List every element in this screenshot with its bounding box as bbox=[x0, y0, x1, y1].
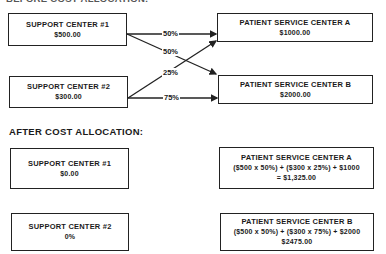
after-support-center-1: SUPPORT CENTER #1 $0.00 bbox=[10, 148, 129, 189]
label-sc2-to-a: 25% bbox=[162, 68, 179, 77]
before-support-center-2: SUPPORT CENTER #2 $300.00 bbox=[9, 76, 128, 108]
after-patient-center-a: PATIENT SERVICE CENTER A ($500 x 50%) + … bbox=[219, 147, 374, 189]
after-patient-center-b: PATIENT SERVICE CENTER B ($500 x 50%) + … bbox=[220, 213, 374, 251]
label-sc1-to-a: 50% bbox=[162, 29, 179, 38]
before-patient-center-b: PATIENT SERVICE CENTER B $2000.00 bbox=[218, 75, 373, 104]
box-result: $2475.00 bbox=[282, 237, 313, 247]
before-patient-center-a: PATIENT SERVICE CENTER A $1000.00 bbox=[217, 13, 373, 42]
box-name: SUPPORT CENTER #2 bbox=[29, 222, 112, 232]
before-support-center-1: SUPPORT CENTER #1 $500.00 bbox=[8, 13, 127, 46]
label-sc1-to-b: 50% bbox=[162, 47, 179, 56]
box-name: SUPPORT CENTER #1 bbox=[28, 159, 111, 169]
box-name: PATIENT SERVICE CENTER B bbox=[241, 217, 352, 227]
box-result: = $1,325.00 bbox=[277, 173, 316, 183]
after-support-center-2: SUPPORT CENTER #2 0% bbox=[11, 213, 129, 251]
box-amount: $300.00 bbox=[55, 92, 82, 102]
label-sc2-to-b: 75% bbox=[163, 93, 180, 102]
box-name: SUPPORT CENTER #1 bbox=[26, 20, 109, 30]
box-name: PATIENT SERVICE CENTER A bbox=[240, 18, 351, 28]
box-amount: $2000.00 bbox=[280, 90, 311, 100]
box-amount: $1000.00 bbox=[280, 28, 311, 38]
after-title: AFTER COST ALLOCATION: bbox=[9, 126, 143, 137]
box-name: PATIENT SERVICE CENTER A bbox=[241, 153, 352, 163]
box-formula: ($500 x 50%) + ($300 x 25%) + $1000 bbox=[233, 163, 359, 173]
box-formula: ($500 x 50%) + ($300 x 75%) + $2000 bbox=[234, 227, 360, 237]
box-amount: $0.00 bbox=[60, 169, 79, 179]
box-name: PATIENT SERVICE CENTER B bbox=[240, 80, 351, 90]
box-name: SUPPORT CENTER #2 bbox=[27, 82, 110, 92]
box-amount: $500.00 bbox=[54, 30, 81, 40]
box-amount: 0% bbox=[65, 232, 76, 242]
